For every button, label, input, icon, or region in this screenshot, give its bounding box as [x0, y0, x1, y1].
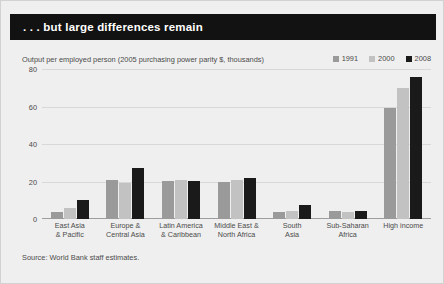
legend-label: 2008	[415, 54, 431, 63]
bar[interactable]	[286, 211, 298, 219]
bar[interactable]	[273, 212, 285, 219]
x-axis-label-line: North Africa	[209, 231, 265, 240]
bar[interactable]	[244, 178, 256, 219]
x-axis-label: Latin America& Caribbean	[153, 222, 209, 239]
bar[interactable]	[175, 180, 187, 219]
bar[interactable]	[329, 211, 341, 219]
bar[interactable]	[355, 211, 367, 219]
bar[interactable]	[384, 108, 396, 219]
x-axis-label-line: High income	[375, 222, 431, 231]
bar[interactable]	[162, 181, 174, 219]
x-axis-label: Europe &Central Asia	[98, 222, 154, 239]
y-axis-tick-label: 60	[29, 102, 37, 111]
x-axis-label-line: Asia	[264, 231, 320, 240]
bars	[42, 69, 98, 219]
bar[interactable]	[132, 168, 144, 219]
bar[interactable]	[342, 212, 354, 220]
bars	[375, 69, 431, 219]
bar-group	[264, 69, 320, 219]
legend-item[interactable]: 2008	[406, 54, 431, 63]
bar[interactable]	[218, 182, 230, 220]
page-title: . . . but large differences remain	[23, 21, 203, 33]
bar[interactable]	[64, 208, 76, 219]
bar[interactable]	[188, 181, 200, 219]
bar-group	[375, 69, 431, 219]
bar[interactable]	[299, 205, 311, 219]
legend-swatch-icon	[406, 56, 412, 62]
x-axis-label: SouthAsia	[264, 222, 320, 239]
x-axis-label-line: Central Asia	[98, 231, 154, 240]
y-axis-tick-label: 0	[33, 215, 37, 224]
legend-item[interactable]: 1991	[333, 54, 358, 63]
x-axis-label: High income	[375, 222, 431, 239]
header-band: . . . but large differences remain	[10, 14, 436, 40]
chart-legend: 199120002008	[333, 54, 431, 63]
y-axis-tick-label: 40	[29, 140, 37, 149]
bar[interactable]	[231, 180, 243, 219]
bars	[209, 69, 265, 219]
x-axis-labels: East Asia& PacificEurope &Central AsiaLa…	[42, 222, 431, 239]
bar-groups	[42, 69, 431, 219]
bar[interactable]	[77, 200, 89, 219]
bar-group	[98, 69, 154, 219]
chart-figure: . . . but large differences remain Outpu…	[0, 0, 444, 284]
bar-group	[42, 69, 98, 219]
bar-group	[320, 69, 376, 219]
gridline	[42, 219, 431, 220]
bar-group	[153, 69, 209, 219]
bars	[98, 69, 154, 219]
x-axis-label-line: & Pacific	[42, 231, 98, 240]
bar[interactable]	[410, 77, 422, 220]
bars	[153, 69, 209, 219]
x-axis-label: East Asia& Pacific	[42, 222, 98, 239]
x-axis-label-line: & Caribbean	[153, 231, 209, 240]
legend-item[interactable]: 2000	[369, 54, 394, 63]
bar[interactable]	[119, 183, 131, 219]
x-axis-label-line: Africa	[320, 231, 376, 240]
bar[interactable]	[106, 180, 118, 219]
bar-group	[209, 69, 265, 219]
legend-label: 1991	[342, 54, 358, 63]
bars	[320, 69, 376, 219]
y-axis-tick-label: 20	[29, 177, 37, 186]
legend-label: 2000	[378, 54, 394, 63]
x-axis-label: Middle East &North Africa	[209, 222, 265, 239]
legend-swatch-icon	[333, 56, 339, 62]
bars	[264, 69, 320, 219]
x-axis-label: Sub-SaharanAfrica	[320, 222, 376, 239]
y-axis-tick-label: 80	[29, 65, 37, 74]
legend-swatch-icon	[369, 56, 375, 62]
bar[interactable]	[51, 212, 63, 220]
plot-area: 020406080	[42, 69, 431, 219]
chart-subtitle: Output per employed person (2005 purchas…	[22, 55, 264, 64]
bar[interactable]	[397, 88, 409, 219]
source-note: Source: World Bank staff estimates.	[22, 253, 139, 262]
